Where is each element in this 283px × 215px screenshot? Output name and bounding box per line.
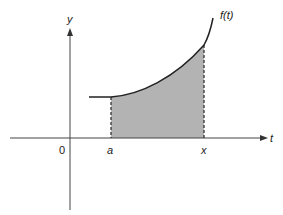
area-under-curve-diagram: f(t) y t 0 a x	[0, 0, 283, 215]
t-axis-arrow-icon	[260, 135, 268, 141]
origin-label: 0	[59, 144, 65, 156]
y-axis-label: y	[66, 13, 74, 25]
interval-start-label: a	[107, 144, 113, 156]
interval-end-label: x	[200, 144, 207, 156]
t-axis-label: t	[270, 132, 274, 144]
y-axis-arrow-icon	[67, 28, 73, 36]
function-label: f(t)	[220, 9, 234, 21]
